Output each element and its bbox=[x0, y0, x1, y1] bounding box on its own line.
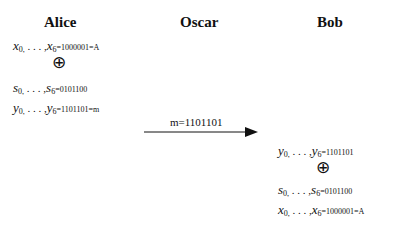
plaintext-value: =1000001=A bbox=[322, 207, 365, 216]
ellipsis: . . . , bbox=[25, 40, 47, 52]
oscar-title: Oscar bbox=[180, 14, 218, 31]
bob-title: Bob bbox=[317, 14, 343, 31]
xor-icon: ⊕ bbox=[52, 52, 66, 72]
ellipsis: . . . , bbox=[25, 102, 47, 114]
ciphertext-value: =1101101 bbox=[322, 148, 354, 157]
ellipsis: . . . , bbox=[24, 82, 46, 94]
ellipsis: . . . , bbox=[289, 184, 311, 196]
channel-arrow bbox=[142, 125, 260, 139]
bob-keystream-line: s0, . . . ,s6=0101100 bbox=[278, 182, 352, 198]
keystream-value: =0101100 bbox=[55, 85, 87, 94]
arrow-head bbox=[245, 127, 258, 137]
ellipsis: . . . , bbox=[290, 204, 312, 216]
bob-plaintext-line: x0, . . . ,x6=1000001=A bbox=[278, 202, 364, 218]
alice-title: Alice bbox=[44, 14, 76, 31]
plaintext-value: =1000001=A bbox=[57, 43, 100, 52]
alice-keystream-line: s0, . . . ,s6=0101100 bbox=[13, 80, 87, 96]
ellipsis: . . . , bbox=[290, 145, 312, 157]
keystream-value: =0101100 bbox=[320, 187, 352, 196]
xor-icon: ⊕ bbox=[316, 157, 330, 177]
alice-ciphertext-line: y0, . . . ,y6=1101101=m bbox=[13, 100, 99, 116]
ciphertext-value: =1101101=m bbox=[57, 105, 100, 114]
